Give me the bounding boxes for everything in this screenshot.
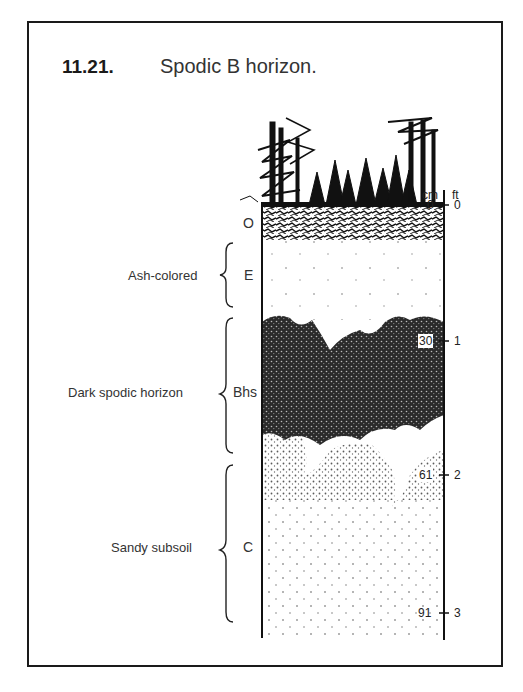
horizon-symbol-e: E: [244, 267, 253, 283]
horizon-label-bhs: Dark spodic horizon: [68, 385, 183, 400]
e-horizon-layer: [262, 240, 444, 320]
horizon-symbol-c: C: [243, 539, 253, 555]
scale-tick-ft: 1: [454, 334, 461, 348]
scale-tick-ft: 3: [454, 606, 461, 620]
scale-tick-cm: 91: [418, 606, 431, 620]
bhs-horizon-layer: [262, 316, 444, 445]
o-horizon-layer: [262, 204, 444, 240]
horizon-symbol-bhs: Bhs: [233, 384, 257, 400]
horizon-label-e: Ash-colored: [128, 268, 197, 283]
scale-tick-cm: 0: [427, 198, 434, 212]
scale-tick-cm: 30: [418, 334, 433, 348]
scale-tick-ft: 2: [454, 468, 461, 482]
scale-tick-cm: 61: [418, 468, 433, 482]
c-horizon-layer: [262, 500, 444, 638]
scale-tick-ft: 0: [454, 198, 461, 212]
horizon-label-c: Sandy subsoil: [111, 540, 192, 555]
soil-profile-illustration: [0, 0, 523, 692]
horizon-braces: [220, 243, 233, 622]
forest-vegetation-icon: [240, 118, 438, 206]
horizon-symbol-o: O: [243, 215, 254, 231]
